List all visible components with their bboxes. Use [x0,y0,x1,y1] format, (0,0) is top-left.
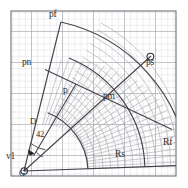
label-p: p [63,86,68,96]
label-angle-42: 42 [36,130,44,139]
figure-root: pf pn p pm ps Rs Rf v1 G D 42 [0,0,188,188]
label-d: D [30,117,36,126]
label-pm: pm [103,92,115,102]
label-v1: v1 [6,152,15,162]
label-rf: Rf [163,138,172,148]
label-g: G [19,169,25,178]
label-pn: pn [22,58,31,68]
label-ps: ps [146,58,154,68]
label-pf: pf [49,10,57,20]
diagram-canvas [0,0,188,188]
label-rs: Rs [115,150,125,160]
